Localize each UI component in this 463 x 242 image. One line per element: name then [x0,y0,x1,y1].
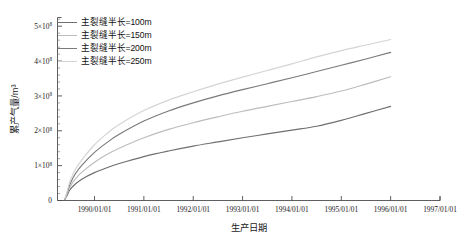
legend-item-label: 主裂缝半长=100m [81,17,152,27]
y-tick-label: 5×108 [34,21,52,31]
y-axis-title: 累产气量/m³ [9,84,20,133]
legend-line-swatch [58,35,77,36]
x-tick-label: 1990/01/01 [78,205,112,214]
chart-legend: 主裂缝半长=100m主裂缝半长=150m主裂缝半长=200m主裂缝半长=250m [58,16,152,67]
x-tick-label: 1997/01/01 [423,205,457,214]
x-tick-label: 1995/01/01 [324,205,358,214]
legend-item-4[interactable]: 主裂缝半长=250m [58,55,152,67]
legend-item-label: 主裂缝半长=200m [81,43,152,53]
y-tick-label: 0 [48,196,52,205]
x-tick-label: 1991/01/01 [127,205,161,214]
legend-item-3[interactable]: 主裂缝半长=200m [58,42,152,54]
series-line-1 [65,106,391,199]
y-tick-label: 4×108 [34,56,52,66]
legend-item-label: 主裂缝半长=250m [81,56,152,66]
x-tick-label: 1996/01/01 [374,205,408,214]
x-tick-label: 1993/01/01 [226,205,260,214]
series-line-3 [65,52,391,199]
legend-item-label: 主裂缝半长=150m [81,30,152,40]
legend-line-swatch [58,48,77,49]
legend-line-swatch [58,61,77,62]
y-tick-label: 2×108 [34,126,52,136]
legend-item-1[interactable]: 主裂缝半长=100m [58,16,152,28]
x-tick-label: 1994/01/01 [275,205,309,214]
y-tick-label: 3×108 [34,91,52,101]
x-tick-label: 1992/01/01 [176,205,210,214]
chart-figure: 01×1082×1083×1084×1085×1081990/01/011991… [0,0,463,242]
legend-line-swatch [58,22,77,23]
x-axis-title: 生产日期 [231,222,267,233]
legend-item-2[interactable]: 主裂缝半长=150m [58,29,152,41]
y-tick-label: 1×108 [34,161,52,171]
